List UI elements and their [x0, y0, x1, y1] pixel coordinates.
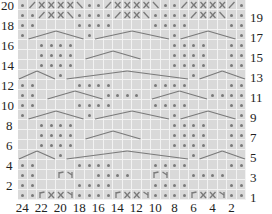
row-label-left: 8: [6, 119, 13, 132]
chart-cell: [94, 30, 104, 40]
purl-dot-icon: [69, 44, 72, 47]
chart-cell: [208, 20, 218, 30]
purl-dot-icon: [97, 194, 100, 197]
chart-cell: [56, 20, 66, 30]
chart-cell: [123, 190, 133, 200]
chart-cell: [47, 110, 57, 120]
purl-dot-icon: [40, 144, 43, 147]
chart-cell: [170, 170, 180, 180]
chart-cell: [227, 0, 237, 10]
chart-cell: [180, 110, 190, 120]
chart-cell: [123, 120, 133, 130]
chart-cell: [47, 80, 57, 90]
chart-cell: [161, 90, 171, 100]
purl-dot-icon: [97, 174, 100, 177]
chart-cell: [123, 160, 133, 170]
purl-dot-icon: [50, 54, 53, 57]
chart-cell: [123, 130, 133, 140]
chart-cell: [208, 110, 218, 120]
purl-dot-icon: [88, 4, 91, 7]
chart-cell: [113, 140, 123, 150]
purl-dot-icon: [240, 194, 243, 197]
purl-dot-icon: [240, 104, 243, 107]
chart-cell: [75, 40, 85, 50]
chart-cell: [227, 70, 237, 80]
purl-dot-icon: [230, 84, 233, 87]
column-label: 22: [35, 201, 48, 214]
purl-dot-icon: [154, 194, 157, 197]
purl-dot-icon: [202, 44, 205, 47]
purl-dot-icon: [240, 64, 243, 67]
purl-dot-icon: [21, 24, 24, 27]
chart-cell: [132, 60, 142, 70]
chart-cell: [189, 100, 199, 110]
chart-cell: [123, 180, 133, 190]
chart-cell: [142, 0, 152, 10]
purl-dot-icon: [21, 84, 24, 87]
chart-cell: [104, 60, 114, 70]
chart-cell: [75, 120, 85, 130]
chart-cell: [56, 100, 66, 110]
chart-cell: [113, 80, 123, 90]
chart-cell: [66, 90, 76, 100]
chart-cell: [37, 100, 47, 110]
chart-cell: [218, 30, 228, 40]
chart-cell: [113, 70, 123, 80]
chart-cell: [113, 60, 123, 70]
purl-dot-icon: [59, 54, 62, 57]
purl-dot-icon: [221, 94, 224, 97]
purl-dot-icon: [78, 184, 81, 187]
chart-cell: [56, 90, 66, 100]
chart-cell: [37, 110, 47, 120]
purl-dot-icon: [154, 164, 157, 167]
chart-cell: [47, 170, 57, 180]
purl-dot-icon: [183, 54, 186, 57]
row-label-right: 3: [250, 171, 257, 184]
chart-cell: [208, 140, 218, 150]
purl-dot-icon: [88, 164, 91, 167]
purl-dot-icon: [78, 24, 81, 27]
chart-cell: [199, 20, 209, 30]
chart-cell: [199, 80, 209, 90]
purl-dot-icon: [164, 184, 167, 187]
purl-dot-icon: [154, 24, 157, 27]
chart-cell: [237, 70, 247, 80]
purl-dot-icon: [173, 14, 176, 17]
purl-dot-icon: [21, 104, 24, 107]
chart-cell: [161, 50, 171, 60]
chart-cell: [180, 30, 190, 40]
chart-cell: [218, 50, 228, 60]
chart-cell: [94, 110, 104, 120]
chart-cell: [94, 40, 104, 50]
chart-cell: [18, 60, 28, 70]
purl-dot-icon: [230, 184, 233, 187]
purl-dot-icon: [183, 44, 186, 47]
chart-cell: [56, 30, 66, 40]
purl-dot-icon: [173, 194, 176, 197]
row-label-right: 19: [250, 11, 263, 24]
chart-cell: [104, 110, 114, 120]
chart-cell: [208, 40, 218, 50]
purl-dot-icon: [21, 184, 24, 187]
chart-cell: [132, 160, 142, 170]
purl-dot-icon: [240, 54, 243, 57]
purl-dot-icon: [59, 64, 62, 67]
chart-cell: [123, 0, 133, 10]
chart-cell: [142, 110, 152, 120]
purl-dot-icon: [173, 124, 176, 127]
purl-dot-icon: [97, 24, 100, 27]
chart-cell: [113, 20, 123, 30]
chart-cell: [161, 110, 171, 120]
purl-dot-icon: [173, 24, 176, 27]
chart-cell: [142, 130, 152, 140]
row-label-left: 12: [1, 79, 14, 92]
column-label: 8: [171, 201, 178, 214]
purl-dot-icon: [202, 54, 205, 57]
purl-dot-icon: [21, 194, 24, 197]
chart-cell: [113, 180, 123, 190]
chart-cell: [218, 160, 228, 170]
purl-dot-icon: [135, 94, 138, 97]
chart-cell: [142, 140, 152, 150]
chart-cell: [37, 150, 47, 160]
chart-cell: [123, 150, 133, 160]
